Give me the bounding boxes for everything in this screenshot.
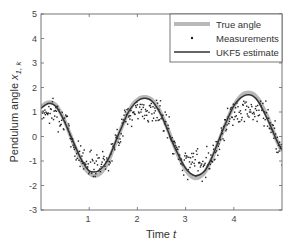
x-tick-label: 4 xyxy=(231,214,236,224)
x-tick-label: 2 xyxy=(134,214,139,224)
legend-true-angle-label: True angle xyxy=(216,19,261,30)
plot-area xyxy=(41,92,283,182)
y-axis-label: Pendulum angle x1, k xyxy=(8,61,23,163)
true-angle-line xyxy=(41,92,282,178)
y-tick-label: -1 xyxy=(29,156,37,166)
legend-measurements-swatch xyxy=(191,37,193,39)
y-tick-labels: -3 -2 -1 0 1 2 3 4 5 xyxy=(29,9,37,215)
legend-measurements-label: Measurements xyxy=(216,33,279,44)
y-tick-label: 1 xyxy=(32,107,37,117)
y-tick-label: 5 xyxy=(32,9,37,19)
legend-ukf5-label: UKF5 estimate xyxy=(216,47,279,58)
y-tick-label: 2 xyxy=(32,83,37,93)
ukf5-estimate-line xyxy=(41,95,282,176)
x-tick-label: 1 xyxy=(85,214,90,224)
y-tick-label: -3 xyxy=(29,205,37,215)
y-tick-label: 3 xyxy=(32,58,37,68)
y-tick-label: 0 xyxy=(32,132,37,142)
x-tick-label: 3 xyxy=(182,214,187,224)
chart: 1 2 3 4 -3 -2 -1 0 1 2 3 4 5 Time t Pend… xyxy=(0,0,297,247)
x-axis-label: Time t xyxy=(146,228,177,240)
x-tick-labels: 1 2 3 4 xyxy=(85,214,236,224)
legend: True angle Measurements UKF5 estimate xyxy=(170,14,282,62)
y-tick-label: -2 xyxy=(29,181,37,191)
measurement-points xyxy=(41,98,282,182)
y-tick-label: 4 xyxy=(32,34,37,44)
